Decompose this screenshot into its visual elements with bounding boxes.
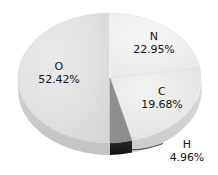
pie-label-c-value: 19.68% (129, 99, 195, 112)
pie-label-c: C 19.68% (129, 86, 195, 112)
pie-label-n-value: 22.95% (123, 44, 185, 57)
pie-label-n: N 22.95% (123, 31, 185, 57)
pie-label-h: H 4.96% (161, 139, 213, 165)
pie-label-o-value: 52.42% (24, 74, 94, 87)
pie-label-o: O 52.42% (24, 61, 94, 87)
pie-label-h-value: 4.96% (161, 152, 213, 165)
pie-chart: O 52.42% N 22.95% C 19.68% H 4.96% (0, 0, 218, 175)
